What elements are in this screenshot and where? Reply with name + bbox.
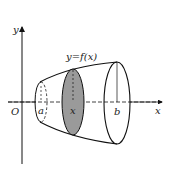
y-axis-label: y (12, 24, 19, 35)
curve-label: y=f(x) (65, 51, 97, 62)
x-label: x (70, 105, 76, 116)
origin-label: O (11, 106, 19, 117)
a-label: a (38, 105, 44, 116)
x-axis-label: x (155, 105, 161, 116)
b-label: b (114, 106, 120, 117)
solid-of-revolution-diagram: y x O a x b y=f(x) (0, 0, 169, 174)
